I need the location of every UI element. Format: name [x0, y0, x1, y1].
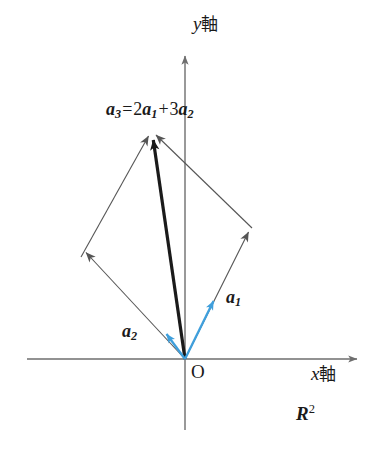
- space-label-exponent: 2: [309, 402, 315, 416]
- equation-a3: a3=2a1+3a2: [106, 100, 194, 121]
- equation-lhs-base: a: [106, 99, 115, 119]
- equation-term2-base: a: [179, 99, 188, 119]
- y-axis-word: 軸: [201, 14, 218, 34]
- vector-label-a1: a1: [226, 288, 241, 309]
- vector-label-a2: a2: [122, 322, 137, 343]
- equation-equals: =: [121, 99, 133, 119]
- diagram-canvas: [0, 0, 391, 467]
- equation-term1-base: a: [142, 99, 151, 119]
- parallelogram-edge-3a2-to-sum: [81, 136, 149, 257]
- origin-label: O: [191, 362, 205, 381]
- space-label-r2: R2: [296, 403, 315, 423]
- equation-coef2: 3: [170, 99, 179, 119]
- x-axis-label: x軸: [311, 364, 336, 383]
- equation-plus: +: [157, 99, 169, 119]
- y-axis-label: y軸: [193, 14, 218, 33]
- vector-label-a2-base: a: [122, 321, 131, 341]
- vector-label-a1-sub: 1: [235, 295, 241, 309]
- parallelogram-edge-2a1-to-sum: [156, 135, 252, 228]
- equation-coef1: 2: [133, 99, 142, 119]
- equation-term2-sub: 2: [188, 107, 194, 121]
- vector-a3-arrow: [153, 140, 185, 359]
- x-axis-word: 軸: [319, 364, 336, 384]
- vector-label-a1-base: a: [226, 287, 235, 307]
- space-label-base: R: [296, 403, 309, 424]
- vector-a1-arrow: [185, 301, 214, 359]
- vector-label-a2-sub: 2: [131, 329, 137, 343]
- vector-diagram-figure: y軸 x軸 O R2 a3=2a1+3a2 a1 a2: [0, 0, 391, 467]
